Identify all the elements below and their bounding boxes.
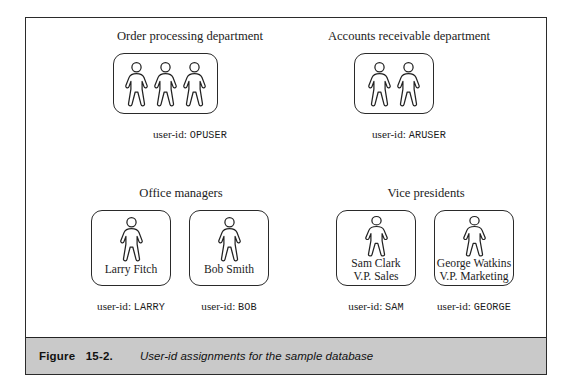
person-figures [364,215,389,257]
person-icon [462,215,487,257]
group-heading: Office managers [66,186,296,201]
group-heading: Vice presidents [311,186,541,201]
person-icon [153,61,178,107]
group-office-managers: Office managers Larry Fitch [66,186,296,331]
group-order-processing: Order processing department [88,29,292,164]
group-vice-presidents: Vice presidents Sam Clark V.P. Sales [311,186,541,331]
userid-prefix: user-id: [153,128,187,140]
person-name: George Watkins V.P. Marketing [437,258,511,283]
person-name: Sam Clark V.P. Sales [351,258,400,283]
userid-value: ARUSER [409,130,446,141]
figure-caption-text: User-id assignments for the sample datab… [140,350,373,362]
group-accounts-receivable: Accounts receivable department [304,29,514,164]
userid-prefix: user-id: [348,300,382,312]
person-icon [364,215,389,257]
userid-label-larry: user-id: LARRY [91,300,171,313]
figure-number-value: 15-2. [86,350,113,362]
person-icon [396,61,421,107]
userid-label-george: user-id: GEORGE [434,300,514,313]
userid-value: LARRY [134,302,165,313]
person-icon [182,61,207,107]
person-icon [124,61,149,107]
person-box-aruser[interactable] [354,53,434,114]
person-figures [119,216,144,262]
person-name-line: Sam Clark [351,258,400,271]
person-box-opuser[interactable] [113,53,218,114]
userid-value: BOB [238,302,257,313]
userid-label-bob: user-id: BOB [189,300,269,313]
person-name-line: Bob Smith [204,263,254,276]
person-box-bob[interactable]: Bob Smith [189,210,269,286]
figure-drawing-area: Order processing department [26,18,546,337]
figure-number-word: Figure [39,350,75,362]
person-figures [462,215,487,257]
person-box-sam[interactable]: Sam Clark V.P. Sales [336,210,416,286]
userid-value: GEORGE [474,302,511,313]
figure-frame: Order processing department [25,17,547,375]
figure-page: Order processing department [0,0,571,392]
userid-value: SAM [385,302,404,313]
userid-label-sam: user-id: SAM [336,300,416,313]
userid-prefix: user-id: [372,128,406,140]
group-heading: Order processing department [88,29,292,44]
figure-number: Figure 15-2. [39,350,113,362]
person-figures [367,61,421,107]
figure-caption-bar: Figure 15-2. User-id assignments for the… [26,337,546,374]
userid-prefix: user-id: [437,300,471,312]
person-name-line: Larry Fitch [105,263,157,276]
person-name: Bob Smith [204,264,254,277]
person-figures [124,61,207,107]
group-heading: Accounts receivable department [304,29,514,44]
person-figures [217,216,242,262]
person-title-line: V.P. Sales [351,271,400,284]
person-name: Larry Fitch [105,264,157,277]
userid-prefix: user-id: [201,300,235,312]
userid-label-opuser: user-id: OPUSER [88,128,292,141]
person-icon [367,61,392,107]
userid-value: OPUSER [190,130,227,141]
person-icon [217,216,242,262]
person-title-line: V.P. Marketing [437,271,511,284]
userid-prefix: user-id: [97,300,131,312]
person-box-larry[interactable]: Larry Fitch [91,210,171,286]
userid-label-aruser: user-id: ARUSER [304,128,514,141]
person-icon [119,216,144,262]
person-box-george[interactable]: George Watkins V.P. Marketing [434,210,514,286]
person-name-line: George Watkins [437,258,511,271]
